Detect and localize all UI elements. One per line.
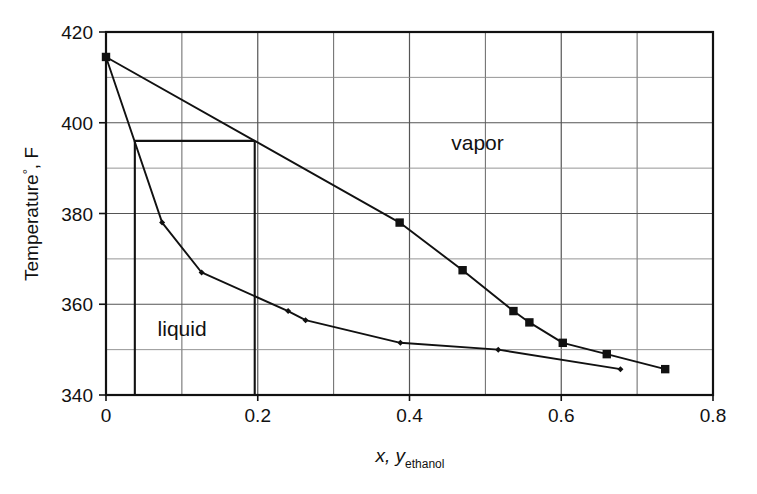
y-axis-title: Temperature°, F <box>20 147 42 281</box>
x-tick-label: 0.8 <box>700 405 726 426</box>
data-point-square <box>458 266 466 274</box>
data-point-square <box>661 365 669 373</box>
vapor-region-label: vapor <box>451 131 504 154</box>
data-point-square <box>395 218 403 226</box>
y-tick-label: 340 <box>61 385 93 406</box>
x-tick-label: 0.4 <box>396 405 423 426</box>
y-tick-label: 420 <box>61 22 93 43</box>
x-tick-label: 0.6 <box>548 405 574 426</box>
x-tick-label: 0 <box>101 405 112 426</box>
data-point-square <box>509 307 517 315</box>
chart-background <box>0 0 757 494</box>
liquid-region-label: liquid <box>158 317 207 340</box>
y-tick-label: 400 <box>61 113 93 134</box>
y-axis-title-text: Temperature°, F <box>20 147 42 281</box>
data-point-square <box>559 339 567 347</box>
txy-diagram-svg: 00.20.40.60.8340360380400420 vaporliquid… <box>0 0 757 494</box>
x-tick-label: 0.2 <box>245 405 271 426</box>
y-tick-label: 360 <box>61 294 93 315</box>
chart-figure: 00.20.40.60.8340360380400420 vaporliquid… <box>0 0 757 494</box>
y-tick-label: 380 <box>61 204 93 225</box>
data-point-square <box>525 318 533 326</box>
data-point-square <box>603 350 611 358</box>
